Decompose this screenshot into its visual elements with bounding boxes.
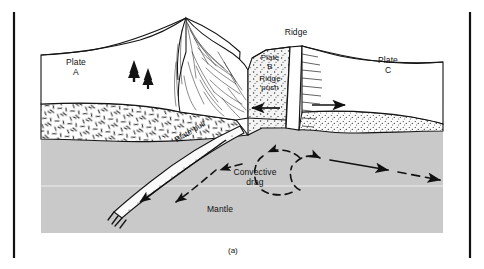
label-ridge-push: Ridge push [250,75,290,93]
label-ridge: Ridge [265,28,327,38]
figure-caption: (a) [228,246,238,255]
label-convective-drag: Convective drag [218,168,292,187]
label-plate-a: Plate A [48,58,104,77]
label-mantle: Mantle [190,205,250,215]
figure-plate-tectonics: Plate A Plate B Plate C Ridge Ridge push… [0,0,484,269]
label-plate-b: Plate B [252,54,288,72]
diagram-canvas [0,0,484,269]
label-plate-c: Plate C [360,56,416,75]
